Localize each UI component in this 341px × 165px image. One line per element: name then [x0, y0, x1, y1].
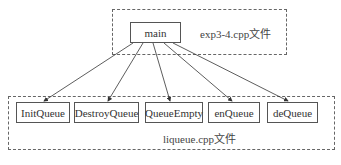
edge-main-enqueue — [164, 43, 232, 101]
edge-main-queueempty — [153, 43, 170, 101]
node-queueempty: QueueEmpty — [145, 102, 203, 123]
node-destroyqueue: DestroyQueue — [74, 102, 139, 123]
top-group-label: exp3-4.cpp文件 — [200, 25, 271, 41]
call-diagram: main exp3-4.cpp文件 InitQueue DestroyQueue… — [0, 0, 341, 165]
node-main: main — [130, 22, 181, 43]
edge-main-dequeue — [173, 43, 288, 101]
node-dequeue: deQueue — [267, 102, 318, 123]
bottom-group-label: liqueue.cpp文件 — [163, 130, 236, 146]
node-enqueue: enQueue — [208, 102, 260, 123]
node-initqueue: InitQueue — [16, 102, 70, 123]
edge-main-destroyqueue — [108, 43, 143, 101]
edge-main-initqueue — [44, 43, 133, 101]
